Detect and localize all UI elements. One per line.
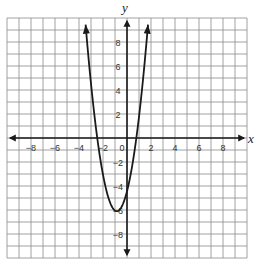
y-axis-label: y xyxy=(120,0,128,15)
y-tick-label: 8 xyxy=(115,38,120,48)
y-tick-label: 2 xyxy=(115,110,120,120)
y-axis-arrow-down-icon xyxy=(124,249,131,256)
x-tick-label: 0 xyxy=(119,143,124,153)
x-axis-label: x xyxy=(247,131,254,146)
x-tick-label: 4 xyxy=(172,143,177,153)
x-tick-label: −8 xyxy=(26,143,36,153)
x-tick-label: 8 xyxy=(220,143,225,153)
y-tick-label: 4 xyxy=(115,86,120,96)
x-axis-arrow-right-icon xyxy=(238,135,245,142)
x-tick-label: 6 xyxy=(196,143,201,153)
y-tick-label: 6 xyxy=(115,62,120,72)
curve-arrowheads xyxy=(83,25,151,34)
x-tick-label: −6 xyxy=(50,143,60,153)
y-tick-label: −8 xyxy=(113,230,123,240)
x-tick-label: 2 xyxy=(148,143,153,153)
x-axis-arrow-left-icon xyxy=(9,135,16,142)
coordinate-plane: −8−6−4−2024688642−2−4−6−8 x y xyxy=(0,0,258,267)
x-tick-label: −4 xyxy=(74,143,84,153)
axes xyxy=(9,20,245,256)
y-tick-label: −2 xyxy=(113,158,123,168)
y-tick-label: −4 xyxy=(113,182,123,192)
y-axis-arrow-up-icon xyxy=(124,20,131,27)
